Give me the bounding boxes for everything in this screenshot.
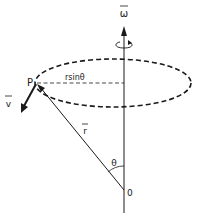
omega-text: ω <box>120 8 128 19</box>
radius-projection-label: rsinθ <box>65 73 85 82</box>
omega-label: ω <box>120 6 128 19</box>
rotation-diagram: ω rsinθ r v P θ 0 <box>0 0 197 223</box>
position-vector <box>40 87 124 190</box>
angle-label: θ <box>111 158 117 168</box>
position-vector-label: r <box>82 124 88 136</box>
origin-label: 0 <box>127 188 133 198</box>
position-vector-text: r <box>83 126 87 136</box>
velocity-label: v <box>5 96 12 109</box>
point-label: P <box>27 77 33 88</box>
omega-arrowhead-icon <box>121 26 127 36</box>
velocity-text: v <box>6 99 12 109</box>
